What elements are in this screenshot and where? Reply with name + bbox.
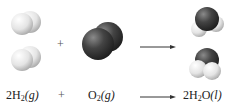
h2-state: (g) — [25, 88, 39, 102]
h2o-formula-h: H — [189, 88, 198, 102]
reaction-arrow-top-icon — [140, 45, 176, 49]
h2-molecule-1 — [11, 11, 41, 35]
reactant-o2-label: O2(g) — [88, 88, 115, 102]
h2-molecule-2 — [11, 46, 41, 71]
o2-formula: O — [88, 88, 97, 102]
h2o-molecule-1 — [191, 7, 224, 37]
o2-state: (g) — [101, 88, 115, 102]
h2o-molecule-2 — [189, 48, 221, 80]
product-h2o-label: 2H2O(l) — [183, 88, 222, 102]
plus-sign-equation: + — [58, 88, 65, 102]
reactant-h2-label: 2H2(g) — [6, 88, 39, 102]
h2o-state: (l) — [210, 88, 221, 102]
plus-sign-top: + — [57, 37, 64, 52]
h2-formula: H — [12, 88, 21, 102]
o2-molecule — [82, 22, 123, 60]
reaction-arrow-bottom-icon — [140, 95, 176, 99]
